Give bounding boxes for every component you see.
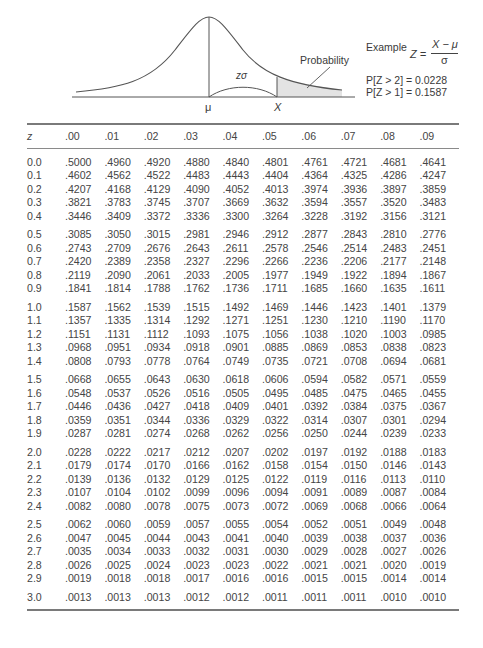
table-row: 1.7.0446.0436.0427.0418.0409.0401.0392.0… (27, 400, 459, 414)
table-row: 2.6.0047.0045.0044.0043.0041.0040.0039.0… (27, 532, 459, 546)
probability-cell: .4920 (144, 149, 183, 170)
probability-cell: .0078 (144, 500, 183, 514)
table-row: 2.1.0179.0174.0170.0166.0162.0158.0154.0… (27, 459, 459, 473)
z-value-cell: 1.1 (27, 314, 65, 328)
probability-cell: .0132 (144, 473, 183, 487)
probability-cell: .2148 (420, 255, 459, 269)
probability-cell: .1841 (65, 282, 104, 296)
probability-cell: .2981 (183, 223, 222, 242)
z-value-cell: 1.8 (27, 414, 65, 428)
table-row: 1.6.0548.0537.0526.0516.0505.0495.0485.0… (27, 387, 459, 401)
probability-cell: .3557 (341, 196, 380, 210)
probability-cell: .0336 (183, 414, 222, 428)
z-value-cell: 1.5 (27, 368, 65, 387)
probability-cell: .2090 (104, 269, 143, 283)
header-col: .02 (144, 125, 183, 148)
table-row: 0.9.1841.1814.1788.1762.1736.1711.1685.1… (27, 282, 459, 296)
probability-cell: .3228 (301, 210, 340, 224)
probability-cell: .3783 (104, 196, 143, 210)
z-value-cell: 2.3 (27, 486, 65, 500)
probability-cell: .3336 (183, 210, 222, 224)
probability-cell: .0681 (420, 355, 459, 369)
probability-cell: .5000 (65, 149, 104, 170)
probability-cell: .0375 (380, 400, 419, 414)
probability-cell: .0823 (420, 341, 459, 355)
probability-cell: .0012 (223, 586, 262, 610)
probability-cell: .2420 (65, 255, 104, 269)
probability-cell: .0367 (420, 400, 459, 414)
probability-cell: .4052 (223, 183, 262, 197)
probability-cell: .0505 (223, 387, 262, 401)
probability-cell: .4013 (262, 183, 301, 197)
probability-cell: .0764 (183, 355, 222, 369)
probability-cell: .0022 (262, 559, 301, 573)
probability-cell: .0066 (380, 500, 419, 514)
z-value-cell: 2.8 (27, 559, 65, 573)
z-value-cell: 1.3 (27, 341, 65, 355)
probability-cell: .0031 (223, 545, 262, 559)
header-col: .05 (262, 125, 301, 148)
probability-cell: .0125 (223, 473, 262, 487)
probability-cell: .3707 (183, 196, 222, 210)
standard-normal-table: z.00.01.02.03.04.05.06.07.08.09 0.0.5000… (27, 125, 459, 610)
probability-cell: .2810 (380, 223, 419, 242)
probability-cell: .0011 (341, 586, 380, 610)
probability-cell: .0668 (65, 368, 104, 387)
probability-cell: .0018 (104, 572, 143, 586)
probability-cell: .1335 (104, 314, 143, 328)
probability-cell: .2843 (341, 223, 380, 242)
probability-cell: .4247 (420, 169, 459, 183)
probability-cell: .0072 (262, 500, 301, 514)
probability-cell: .2546 (301, 242, 340, 256)
probability-cell: .0075 (183, 500, 222, 514)
table-row: 3.0.0013.0013.0013.0012.0012.0011.0011.0… (27, 586, 459, 610)
probability-cell: .2451 (420, 242, 459, 256)
probability-cell: .0708 (341, 355, 380, 369)
probability-cell: .0934 (144, 341, 183, 355)
probability-cell: .0015 (341, 572, 380, 586)
probability-cell: .0630 (183, 368, 222, 387)
probability-cell: .0017 (183, 572, 222, 586)
probability-cell: .0030 (262, 545, 301, 559)
probability-cell: .0721 (301, 355, 340, 369)
probability-cell: .4681 (380, 149, 419, 170)
probability-cell: .0559 (420, 368, 459, 387)
table-row: 2.7.0035.0034.0033.0032.0031.0030.0029.0… (27, 545, 459, 559)
probability-cell: .0158 (262, 459, 301, 473)
probability-cell: .0418 (183, 400, 222, 414)
probability-cell: .4090 (183, 183, 222, 197)
probability-cell: .0062 (65, 513, 104, 532)
probability-cell: .0384 (341, 400, 380, 414)
probability-cell: .0089 (341, 486, 380, 500)
probability-cell: .0885 (262, 341, 301, 355)
z-value-cell: 2.5 (27, 513, 65, 532)
probability-cell: .0038 (341, 532, 380, 546)
probability-cell: .0129 (183, 473, 222, 487)
probability-cell: .2389 (104, 255, 143, 269)
probability-cell: .0526 (144, 387, 183, 401)
probability-cell: .3264 (262, 210, 301, 224)
probability-cell: .3300 (223, 210, 262, 224)
probability-cell: .0901 (223, 341, 262, 355)
probability-cell: .0537 (104, 387, 143, 401)
probability-cell: .0010 (420, 586, 459, 610)
probability-cell: .2643 (183, 242, 222, 256)
probability-cell: .0034 (104, 545, 143, 559)
probability-cell: .2743 (65, 242, 104, 256)
probability-cell: .0015 (301, 572, 340, 586)
probability-cell: .0262 (223, 427, 262, 441)
probability-cell: .4761 (301, 149, 340, 170)
probability-cell: .0018 (144, 572, 183, 586)
probability-cell: .0016 (262, 572, 301, 586)
probability-cell: .0287 (65, 427, 104, 441)
table-row: 1.4.0808.0793.0778.0764.0749.0735.0721.0… (27, 355, 459, 369)
probability-cell: .1170 (420, 314, 459, 328)
z-table: z.00.01.02.03.04.05.06.07.08.09 0.0.5000… (27, 123, 459, 611)
probability-cell: .0013 (104, 586, 143, 610)
probability-cell: .3632 (262, 196, 301, 210)
probability-cell: .0495 (262, 387, 301, 401)
probability-cell: .1131 (104, 328, 143, 342)
probability-cell: .4207 (65, 183, 104, 197)
probability-cell: .0021 (341, 559, 380, 573)
probability-cell: .4168 (104, 183, 143, 197)
